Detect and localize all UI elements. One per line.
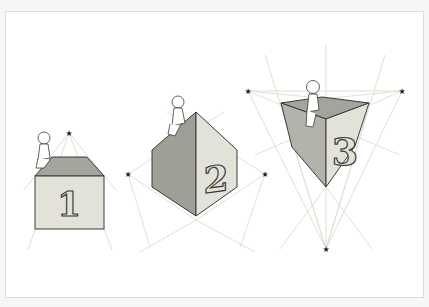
vanishing-point-star-icon: ★ <box>261 170 268 179</box>
vanishing-point-star-icon: ★ <box>398 87 405 96</box>
vanishing-point-star-icon: ★ <box>322 245 329 254</box>
box-2-number: 2 <box>203 156 228 202</box>
vanishing-point-star-icon: ★ <box>65 129 72 138</box>
perspective-illustration: 1 2 3 ★ ★ ★ ★ ★ ★ <box>0 0 429 307</box>
seated-figure-1 <box>36 132 50 168</box>
box-1-number: 1 <box>57 184 81 224</box>
vanishing-point-star-icon: ★ <box>124 170 131 179</box>
vanishing-point-star-icon: ★ <box>244 87 251 96</box>
box-3-number: 3 <box>332 129 358 174</box>
